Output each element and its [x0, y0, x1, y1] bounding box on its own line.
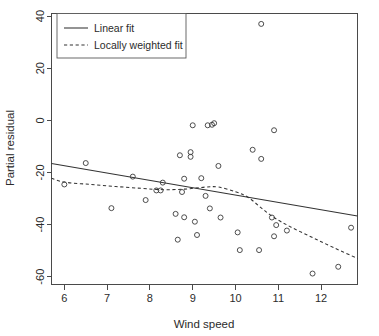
data-point	[218, 215, 223, 220]
scatter-plot-canvas: 40200-20-40-60 6789101112 Wind speed Par…	[0, 0, 379, 336]
y-tick-label: -20	[34, 164, 46, 180]
legend-box	[57, 14, 186, 59]
x-tick-label: 11	[273, 292, 284, 304]
y-tick-label: 20	[34, 62, 46, 74]
data-point	[62, 182, 67, 187]
data-point	[182, 215, 187, 220]
data-point	[143, 198, 148, 203]
data-point	[192, 219, 197, 224]
data-points-group	[62, 21, 354, 276]
data-point	[284, 228, 289, 233]
x-tick-label: 12	[315, 292, 327, 304]
linear-fit-line	[52, 164, 358, 216]
legend: Linear fit Locally weighted fit	[57, 14, 186, 59]
y-axis-title: Partial residual	[4, 110, 16, 186]
y-tick-label: 40	[34, 10, 46, 22]
data-point	[175, 237, 180, 242]
data-point	[83, 161, 88, 166]
x-tick-label: 8	[147, 292, 153, 304]
y-tick-label: -40	[34, 217, 46, 233]
legend-label-linear-fit: Linear fit	[94, 22, 134, 34]
y-axis: 40200-20-40-60	[34, 10, 51, 285]
data-point	[207, 206, 212, 211]
data-point	[336, 264, 341, 269]
legend-label-locally-weighted-fit: Locally weighted fit	[94, 39, 183, 51]
data-point	[272, 128, 277, 133]
data-point	[274, 223, 279, 228]
x-axis-title: Wind speed	[174, 318, 235, 330]
data-point	[109, 206, 114, 211]
data-point	[173, 211, 178, 216]
x-tick-label: 6	[61, 292, 67, 304]
data-point	[250, 147, 255, 152]
data-point	[190, 123, 195, 128]
data-point	[349, 225, 354, 230]
data-point	[199, 176, 204, 181]
data-point	[235, 230, 240, 235]
x-tick-label: 9	[190, 292, 196, 304]
data-point	[259, 21, 264, 26]
data-point	[259, 156, 264, 161]
y-tick-label: -60	[34, 269, 46, 285]
data-point	[180, 190, 185, 195]
data-point	[272, 234, 277, 239]
x-axis: 6789101112	[52, 285, 358, 304]
data-point	[237, 248, 242, 253]
x-tick-label: 10	[229, 292, 241, 304]
data-point	[257, 248, 262, 253]
data-point	[177, 153, 182, 158]
data-point	[195, 232, 200, 237]
data-point	[203, 193, 208, 198]
data-point	[310, 271, 315, 276]
data-point	[182, 176, 187, 181]
data-point	[130, 174, 135, 179]
data-point	[216, 163, 221, 168]
partial-residual-plot-figure: 40200-20-40-60 6789101112 Wind speed Par…	[0, 0, 379, 336]
x-tick-label: 7	[104, 292, 110, 304]
y-tick-label: 0	[34, 117, 46, 123]
